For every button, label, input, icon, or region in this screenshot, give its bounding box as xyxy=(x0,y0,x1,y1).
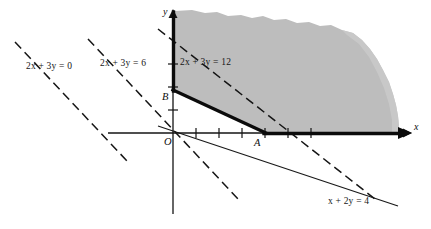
constraint-line-label: x + 2y = 4 xyxy=(328,196,369,206)
constraint-line-x-plus-2y-eq-4 xyxy=(158,126,398,206)
y-axis-label: y xyxy=(163,6,167,17)
objective-line-12-label: 2x + 3y = 12 xyxy=(180,57,231,67)
point-b-label: B xyxy=(162,91,168,102)
objective-line-0-label: 2x + 3y = 0 xyxy=(26,61,72,71)
figure-canvas: 2x + 3y = 0 2x + 3y = 6 2x + 3y = 12 x +… xyxy=(0,0,431,229)
diagram-svg xyxy=(0,0,431,229)
shaded-feasible-region xyxy=(175,10,399,133)
origin-label: O xyxy=(164,136,172,147)
objective-line-6-label: 2x + 3y = 6 xyxy=(100,58,146,68)
x-axis-label: x xyxy=(414,121,418,132)
boundary-arrow-icon xyxy=(398,127,412,139)
point-a-label: A xyxy=(254,137,260,148)
